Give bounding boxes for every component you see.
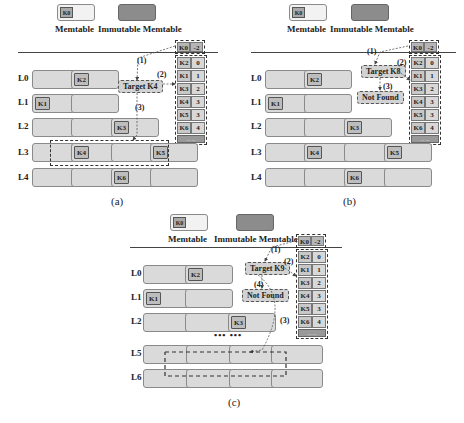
sstable: [143, 265, 191, 284]
sst-key: K4: [307, 146, 322, 159]
legend-immutable-label: Immutable Memtable: [330, 24, 414, 34]
table-row: K64: [411, 122, 439, 134]
legend-memtable-key: K0: [292, 7, 305, 18]
table-row: K32: [298, 277, 326, 289]
legend-memtable-box: K0: [57, 4, 95, 21]
sstable: K3: [344, 118, 392, 137]
sst-key: K1: [146, 292, 161, 305]
row-value: 0: [191, 57, 205, 69]
row-key: K6: [177, 122, 191, 134]
row-key: K1: [411, 70, 425, 82]
legend-memtable-label: Memtable: [55, 24, 94, 34]
table-header-key: K0: [177, 42, 190, 52]
target-bubble: Target K9: [245, 262, 290, 275]
row-value: 3: [425, 96, 439, 108]
step-label: (4): [254, 280, 263, 289]
sstable: [185, 289, 233, 308]
sstable: K3: [111, 118, 159, 137]
step-label: (2): [284, 257, 293, 266]
row-key: K3: [177, 83, 191, 95]
sstable: [71, 94, 119, 113]
table-row: K64: [298, 316, 326, 328]
row-value: 1: [425, 70, 439, 82]
sstable: K2: [185, 265, 233, 284]
row-value: 2: [312, 277, 326, 289]
sstable: [384, 168, 432, 187]
legend-immutable-box: [118, 4, 156, 21]
table-footer: ... ...: [298, 329, 326, 337]
sst-key: K1: [268, 97, 283, 110]
table-row: K11: [411, 70, 439, 82]
target-bubble: Target K4: [118, 80, 163, 93]
caption-c: (c): [228, 396, 240, 408]
step-label: (1): [367, 47, 376, 56]
sst-key: K3: [231, 316, 246, 329]
legend-memtable-box: K0: [289, 4, 327, 21]
sst-key: K3: [114, 121, 129, 134]
table-row: K53: [298, 303, 326, 315]
sstable: K2: [304, 70, 352, 89]
legend-memtable-key: K0: [60, 7, 73, 18]
search-range-highlight: [50, 140, 169, 166]
sstable: K2: [71, 70, 119, 89]
sstable: [271, 345, 323, 364]
legend-memtable-box: K0: [170, 214, 208, 231]
row-value: 3: [312, 303, 326, 315]
row-value: 4: [191, 122, 205, 134]
row-key: K1: [298, 264, 312, 276]
row-key: K3: [411, 83, 425, 95]
table-header-value: -2: [311, 236, 324, 246]
row-value: 1: [191, 70, 205, 82]
index-table: K20 K11 K32 K43 K53 K64 ... ...: [409, 55, 441, 145]
table-header-value: -2: [190, 42, 203, 52]
row-key: K5: [298, 303, 312, 315]
step-label: (3): [135, 103, 144, 112]
table-row: K11: [177, 70, 205, 82]
row-value: 4: [312, 316, 326, 328]
table-header: K0 -2: [409, 40, 439, 54]
sst-key: K2: [188, 268, 203, 281]
sst-key: K6: [114, 171, 129, 184]
sst-key: K3: [347, 121, 362, 134]
row-key: K4: [177, 96, 191, 108]
table-row: K11: [298, 264, 326, 276]
row-value: 4: [425, 122, 439, 134]
sstable: [150, 168, 198, 187]
row-value: 2: [425, 83, 439, 95]
table-footer: ... ...: [177, 135, 205, 143]
row-key: K6: [411, 122, 425, 134]
row-value: 3: [191, 109, 205, 121]
table-row: K64: [177, 122, 205, 134]
ellipsis: ••• •••: [214, 330, 242, 340]
step-label: (2): [157, 70, 166, 79]
table-row: K20: [411, 57, 439, 69]
table-row: K43: [411, 96, 439, 108]
table-header: K0 -2: [175, 40, 205, 54]
table-row: K32: [177, 83, 205, 95]
sst-key: K6: [347, 171, 362, 184]
step-label: (3): [383, 82, 392, 91]
row-key: K1: [177, 70, 191, 82]
legend-immutable-box: [236, 214, 274, 231]
table-header-key: K0: [411, 42, 424, 52]
legend-immutable-label: Immutable Memtable: [98, 24, 182, 34]
table-row: K43: [298, 290, 326, 302]
row-key: K3: [298, 277, 312, 289]
table-row: K53: [411, 109, 439, 121]
row-value: 2: [191, 83, 205, 95]
step-label: (3): [280, 316, 289, 325]
legend-immutable-label: Immutable Memtable: [214, 234, 298, 244]
sst-key: K5: [387, 146, 402, 159]
table-row: K43: [177, 96, 205, 108]
sst-key: K2: [74, 73, 89, 86]
sst-key: K2: [307, 73, 322, 86]
row-key: K4: [298, 290, 312, 302]
legend-immutable-box: [351, 4, 389, 21]
table-row: K20: [177, 57, 205, 69]
not-found-bubble: Not Found: [357, 91, 404, 104]
row-key: K2: [177, 57, 191, 69]
table-header: K0 -2: [296, 234, 326, 248]
table-footer: ... ...: [411, 135, 439, 143]
sstable: [304, 94, 352, 113]
row-value: 0: [425, 57, 439, 69]
